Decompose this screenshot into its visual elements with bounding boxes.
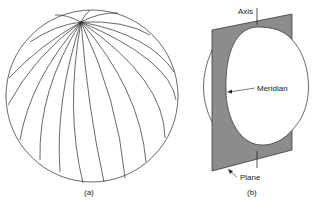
- axis-label: Axis: [238, 8, 253, 16]
- figure-canvas: [0, 0, 315, 202]
- plane-label: Plane: [240, 174, 260, 182]
- sphere-with-meridians: [6, 10, 178, 183]
- sphere-back-arc: [204, 50, 213, 122]
- caption-a: (a): [84, 189, 94, 197]
- meridian-label: Meridian: [257, 85, 288, 93]
- caption-b: (b): [247, 189, 257, 197]
- plane-section-diagram: [204, 8, 309, 177]
